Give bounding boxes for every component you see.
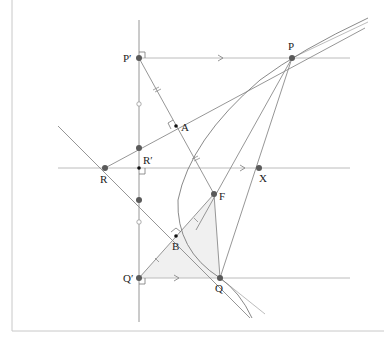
label-q: Q: [215, 282, 223, 294]
point-a: [174, 124, 178, 128]
label-p: P: [288, 40, 294, 52]
label-r: R: [100, 173, 108, 185]
point-r: [102, 165, 108, 171]
label-a: A: [181, 121, 189, 133]
point-p: [289, 55, 295, 61]
point-r-prime: [137, 166, 141, 170]
point-p-prime: [136, 55, 142, 61]
point-q-prime: [136, 275, 142, 281]
point-x: [256, 165, 262, 171]
point-directrix-lower: [136, 197, 142, 203]
right-angle-icon: [171, 228, 181, 232]
label-x: X: [259, 172, 267, 184]
right-angle-icon: [168, 120, 173, 129]
tangent-at-p: [105, 28, 365, 168]
label-r-prime: R′: [143, 154, 153, 166]
label-f: F: [219, 190, 225, 202]
equal-mark-icon: [137, 220, 141, 224]
shaded-triangle: [139, 194, 220, 278]
label-p-prime: P′: [123, 52, 132, 64]
point-b: [174, 234, 178, 238]
tangent-at-p-extension: [292, 22, 368, 58]
equal-mark-icon: [137, 102, 141, 106]
point-f: [211, 191, 217, 197]
point-directrix-upper: [136, 145, 142, 151]
point-q: [217, 275, 223, 281]
label-b: B: [172, 240, 179, 252]
label-q-prime: Q′: [123, 272, 133, 284]
parabola-tangent-diagram: P′ P A R R′ X F B Q′ Q: [0, 0, 384, 342]
